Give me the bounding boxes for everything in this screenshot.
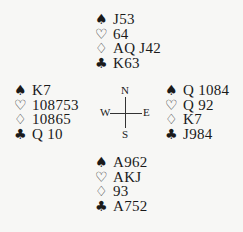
north-hearts-row: ♡64 [95, 27, 161, 42]
west-clubs: Q 10 [32, 127, 63, 142]
club-icon: ♣ [95, 199, 113, 214]
diamond-icon: ♢ [165, 112, 183, 127]
diamond-icon: ♢ [14, 112, 32, 127]
west-diamonds: 10865 [32, 112, 71, 127]
heart-icon: ♡ [165, 98, 183, 113]
east-hand: ♠Q 1084 ♡Q 92 ♢K7 ♣J984 [165, 83, 229, 141]
compass-horizontal-line [110, 113, 142, 114]
north-diamonds-row: ♢AQ J42 [95, 41, 161, 56]
west-hearts-row: ♡108753 [14, 98, 79, 113]
south-clubs: A752 [113, 199, 148, 214]
south-clubs-row: ♣A752 [95, 199, 148, 214]
west-hearts: 108753 [32, 98, 79, 113]
south-hand: ♠A962 ♡AKJ ♢93 ♣A752 [95, 155, 148, 213]
spade-icon: ♠ [165, 83, 183, 98]
south-hearts-row: ♡AKJ [95, 170, 148, 185]
compass-rose: N W E S [100, 84, 152, 142]
north-clubs: K63 [113, 56, 140, 71]
north-hearts: 64 [113, 27, 129, 42]
east-diamonds-row: ♢K7 [165, 112, 229, 127]
heart-icon: ♡ [14, 98, 32, 113]
east-hearts: Q 92 [183, 98, 214, 113]
north-diamonds: AQ J42 [113, 41, 161, 56]
club-icon: ♣ [95, 56, 113, 71]
south-spades: A962 [113, 155, 148, 170]
west-diamonds-row: ♢10865 [14, 112, 79, 127]
diamond-icon: ♢ [95, 41, 113, 56]
club-icon: ♣ [165, 127, 183, 142]
west-hand: ♠K7 ♡108753 ♢10865 ♣Q 10 [14, 83, 79, 141]
east-spades-row: ♠Q 1084 [165, 83, 229, 98]
south-diamonds-row: ♢93 [95, 184, 148, 199]
east-clubs: J984 [183, 127, 213, 142]
club-icon: ♣ [14, 127, 32, 142]
north-clubs-row: ♣K63 [95, 56, 161, 71]
east-spades: Q 1084 [183, 83, 229, 98]
east-hearts-row: ♡Q 92 [165, 98, 229, 113]
spade-icon: ♠ [95, 12, 113, 27]
west-spades: K7 [32, 83, 51, 98]
heart-icon: ♡ [95, 27, 113, 42]
compass-west-label: W [100, 106, 110, 118]
compass-south-label: S [122, 128, 128, 140]
spade-icon: ♠ [95, 155, 113, 170]
heart-icon: ♡ [95, 170, 113, 185]
compass-north-label: N [121, 84, 129, 96]
south-spades-row: ♠A962 [95, 155, 148, 170]
north-spades-row: ♠J53 [95, 12, 161, 27]
spade-icon: ♠ [14, 83, 32, 98]
compass-east-label: E [143, 106, 150, 118]
west-spades-row: ♠K7 [14, 83, 79, 98]
south-diamonds: 93 [113, 184, 129, 199]
west-clubs-row: ♣Q 10 [14, 127, 79, 142]
north-hand: ♠J53 ♡64 ♢AQ J42 ♣K63 [95, 12, 161, 70]
diamond-icon: ♢ [95, 184, 113, 199]
south-hearts: AKJ [113, 170, 141, 185]
compass-vertical-line [125, 97, 126, 128]
north-spades: J53 [113, 12, 135, 27]
east-clubs-row: ♣J984 [165, 127, 229, 142]
east-diamonds: K7 [183, 112, 202, 127]
